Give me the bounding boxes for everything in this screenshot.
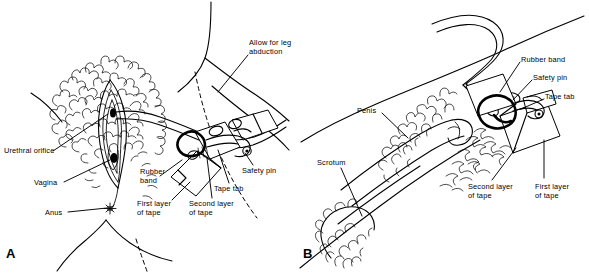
- label-vagina: Vagina: [34, 178, 57, 187]
- label-anus: Anus: [45, 208, 62, 217]
- label-safety-pin-b: Safety pin: [533, 73, 567, 82]
- label-scrotum: Scrotum: [317, 158, 346, 167]
- label-rubber-band-b: Rubber band: [521, 55, 565, 64]
- label-allow-for-leg-abduction: Allow for leg abduction: [249, 38, 291, 56]
- label-penis: Penis: [357, 106, 376, 115]
- label-second-layer-of-tape-a: Second layer of tape: [189, 199, 234, 217]
- label-first-layer-of-tape-b: First layer of tape: [535, 182, 569, 200]
- label-tape-tab-a: Tape tab: [214, 184, 244, 193]
- figure-linework: .s{fill:none;stroke:#000;stroke-width:1.…: [0, 0, 589, 274]
- panel-letter-b: B: [303, 246, 312, 261]
- label-safety-pin-a: Safety pin: [242, 166, 276, 175]
- label-tape-tab-b: Tape tab: [545, 92, 575, 101]
- label-rubber-band-a: Rubber band: [140, 167, 165, 185]
- label-urethral-orifice: Urethral orifice: [4, 146, 54, 155]
- medical-illustration-figure: .s{fill:none;stroke:#000;stroke-width:1.…: [0, 0, 589, 274]
- label-first-layer-of-tape-a: First layer of tape: [137, 199, 171, 217]
- panel-letter-a: A: [6, 246, 15, 261]
- label-second-layer-of-tape-b: Second layer of tape: [468, 182, 513, 200]
